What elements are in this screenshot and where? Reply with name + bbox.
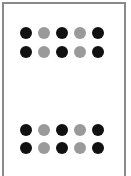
dark-dot-icon (20, 46, 32, 58)
light-dot-icon (74, 142, 86, 154)
dark-dot-icon (56, 142, 68, 154)
dark-dot-icon (20, 124, 32, 136)
light-dot-icon (74, 46, 86, 58)
dark-dot-icon (92, 27, 104, 39)
dark-dot-icon (56, 46, 68, 58)
light-dot-icon (74, 124, 86, 136)
light-dot-icon (74, 27, 86, 39)
dark-dot-icon (92, 142, 104, 154)
dark-dot-icon (92, 124, 104, 136)
dark-dot-icon (92, 46, 104, 58)
dot-row (0, 27, 124, 39)
light-dot-icon (38, 124, 50, 136)
dot-row (0, 124, 124, 136)
light-dot-icon (38, 142, 50, 154)
dot-row (0, 142, 124, 154)
light-dot-icon (38, 27, 50, 39)
light-dot-icon (38, 46, 50, 58)
dark-dot-icon (56, 124, 68, 136)
dark-dot-icon (56, 27, 68, 39)
dark-dot-icon (20, 142, 32, 154)
dark-dot-icon (20, 27, 32, 39)
dot-row (0, 46, 124, 58)
